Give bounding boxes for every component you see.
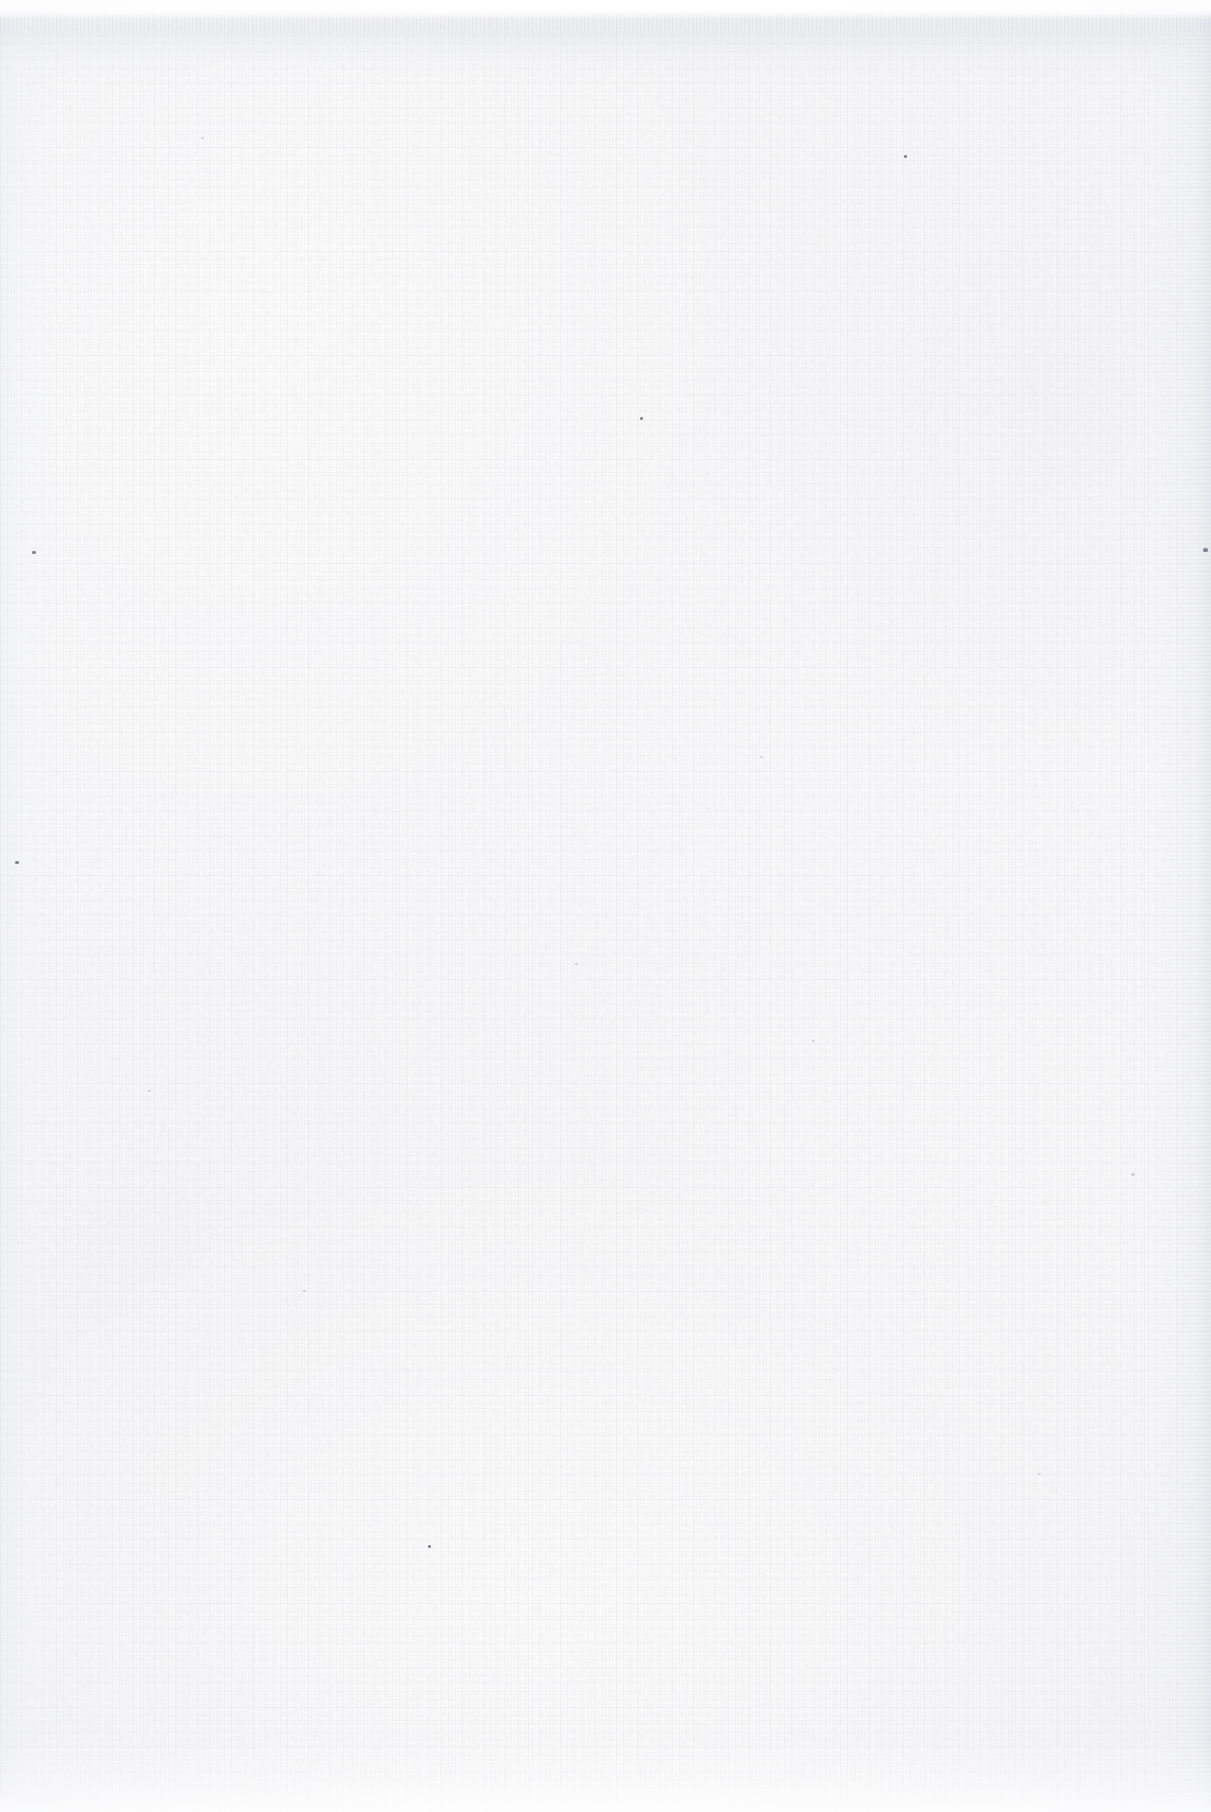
paper-fleck bbox=[303, 1290, 306, 1292]
paper-fleck bbox=[640, 417, 643, 420]
scanned-page bbox=[0, 0, 1211, 1812]
paper-fleck bbox=[760, 756, 763, 758]
paper-fleck bbox=[812, 1040, 815, 1042]
paper-fleck bbox=[904, 155, 907, 158]
paper-fleck bbox=[15, 861, 19, 864]
paper-fleck bbox=[428, 1545, 431, 1548]
paper-fleck bbox=[148, 1090, 151, 1092]
paper-fleck bbox=[575, 963, 578, 965]
paper-fleck bbox=[32, 551, 36, 554]
paper-fleck bbox=[1131, 1173, 1135, 1176]
paper-fleck bbox=[1038, 1473, 1041, 1475]
page-vignette bbox=[0, 0, 1211, 1812]
paper-fleck bbox=[1203, 548, 1208, 552]
paper-fleck bbox=[201, 137, 204, 139]
